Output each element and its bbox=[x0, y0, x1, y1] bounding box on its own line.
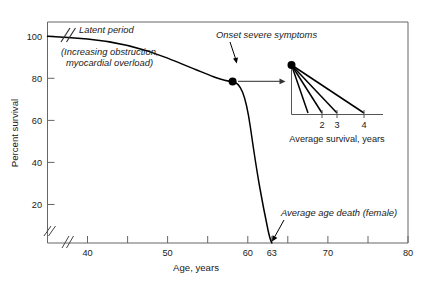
x-axis-title: Age, years bbox=[173, 262, 219, 273]
survival-curve-figure: 100 80 60 40 20 Percent survival 40 50 6… bbox=[0, 0, 427, 282]
inset-tick-label-4: 4 bbox=[361, 120, 366, 130]
annotation-onset-severe-symptoms: Onset severe symptoms bbox=[216, 29, 317, 40]
x-tick-label-63: 63 bbox=[267, 248, 277, 258]
annotation-latent-period: Latent period bbox=[79, 24, 135, 35]
annotation-increasing-obstruction: (Increasing obstruction, bbox=[61, 46, 158, 57]
inset-tick-label-3: 3 bbox=[334, 120, 339, 130]
y-tick-label-100: 100 bbox=[27, 32, 42, 42]
y-tick-label-60: 60 bbox=[32, 116, 42, 126]
inset-vertex-marker bbox=[288, 61, 296, 69]
x-tick-label-40: 40 bbox=[82, 248, 92, 258]
annotation-average-age-death: Average age death (female) bbox=[280, 207, 397, 218]
inset-x-axis-title: Average survival, years bbox=[289, 134, 385, 144]
annotation-myocardial-overload: myocardial overload) bbox=[66, 57, 153, 68]
y-axis-title: Percent survival bbox=[9, 99, 20, 167]
y-tick-label-80: 80 bbox=[32, 74, 42, 84]
inset-tick-label-2: 2 bbox=[319, 120, 324, 130]
y-tick-label-40: 40 bbox=[32, 158, 42, 168]
x-tick-label-50: 50 bbox=[162, 248, 172, 258]
y-tick-label-20: 20 bbox=[32, 200, 42, 210]
x-tick-label-70: 70 bbox=[323, 248, 333, 258]
x-tick-label-60: 60 bbox=[243, 248, 253, 258]
onset-severe-symptoms-marker bbox=[229, 77, 237, 85]
x-tick-label-80: 80 bbox=[403, 248, 413, 258]
